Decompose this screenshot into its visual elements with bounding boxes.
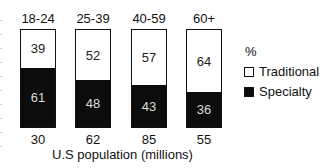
left-edge-dots: [0, 20, 2, 150]
segment-specialty: 36: [187, 92, 221, 127]
x-axis-label: U.S population (millions): [0, 147, 245, 162]
segment-specialty: 48: [76, 80, 110, 127]
bar-40-59: 5743: [131, 29, 167, 128]
group-label: 25-39: [68, 11, 118, 26]
legend-item-specialty: Specialty: [244, 84, 312, 99]
legend-title: %: [245, 44, 257, 59]
group-label: 40-59: [124, 11, 174, 26]
legend-item-traditional: Traditional: [244, 64, 319, 79]
bar-60+: 6436: [186, 29, 222, 128]
segment-traditional: 52: [76, 30, 110, 80]
bar-25-39: 5248: [75, 29, 111, 128]
population-value: 85: [124, 132, 174, 147]
population-value: 30: [13, 132, 63, 147]
group-label: 18-24: [13, 11, 63, 26]
legend-label-traditional: Traditional: [259, 64, 319, 79]
segment-traditional: 64: [187, 30, 221, 92]
segment-specialty: 61: [21, 68, 55, 127]
population-value: 62: [68, 132, 118, 147]
segment-traditional: 57: [132, 30, 166, 85]
population-value: 55: [179, 132, 229, 147]
segment-traditional: 39: [21, 30, 55, 68]
segment-specialty: 43: [132, 85, 166, 127]
specialty-swatch-icon: [244, 87, 254, 97]
group-label: 60+: [179, 11, 229, 26]
traditional-swatch-icon: [244, 67, 254, 77]
legend-label-specialty: Specialty: [259, 84, 312, 99]
bar-18-24: 3961: [20, 29, 56, 128]
